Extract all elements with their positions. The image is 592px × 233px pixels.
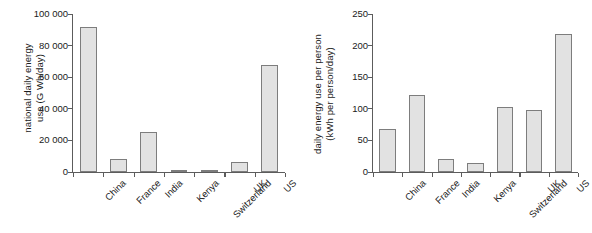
bar-switzerland: [497, 107, 513, 172]
y-tick-label: 100 000: [34, 9, 68, 19]
bar-india: [140, 132, 157, 172]
bar-uk: [231, 162, 248, 172]
x-category-label: India: [460, 178, 482, 200]
x-tick-mark: [578, 173, 579, 177]
chart-panel-daily-energy-use-per-person: daily energy use per person (kWh per per…: [290, 0, 581, 233]
x-category-label: Kenya: [195, 178, 221, 204]
y-tick-label: 150: [352, 72, 368, 82]
bar-us: [261, 65, 278, 172]
y-axis-tick-labels-left: 020 00040 00060 00080 000100 000: [12, 0, 68, 233]
x-category-label: France: [135, 178, 163, 206]
y-tick-label: 250: [352, 9, 368, 19]
x-tick-mark: [224, 173, 225, 177]
x-category-label: China: [103, 178, 128, 203]
x-tick-mark: [103, 173, 104, 177]
x-tick-mark: [134, 173, 135, 177]
x-category-label: US: [575, 178, 591, 194]
bar-france: [409, 95, 425, 172]
x-tick-mark: [194, 173, 195, 177]
y-tick-label: 100: [352, 104, 368, 114]
x-tick-mark: [432, 173, 433, 177]
y-tick-label: 60 000: [39, 72, 68, 82]
y-tick-label: 80 000: [39, 41, 68, 51]
x-tick-mark: [490, 173, 491, 177]
plot-area-left: [73, 14, 285, 172]
x-tick-mark: [461, 173, 462, 177]
bar-uk: [526, 110, 542, 172]
x-tick-mark: [402, 173, 403, 177]
x-tick-mark: [373, 173, 374, 177]
bar-china: [80, 27, 97, 172]
bar-switzerland: [201, 170, 218, 172]
x-tick-mark: [285, 173, 286, 177]
x-tick-mark: [549, 173, 550, 177]
x-tick-mark: [255, 173, 256, 177]
bar-kenya: [467, 163, 483, 172]
y-tick-label: 50: [357, 135, 368, 145]
plot-area-right: [373, 14, 578, 172]
x-category-label: India: [163, 178, 185, 200]
bar-france: [110, 159, 127, 172]
chart-panel-national-daily-energy-use: national daily energy use (G Wh/day) 020…: [0, 0, 291, 233]
bar-us: [555, 34, 571, 172]
x-category-label: France: [434, 178, 462, 206]
bar-china: [379, 129, 395, 172]
y-axis-tick-labels-right: 050100150200250: [312, 0, 368, 233]
x-category-label: China: [403, 178, 428, 203]
x-tick-mark: [164, 173, 165, 177]
y-tick-label: 40 000: [39, 104, 68, 114]
y-tick-label: 20 000: [39, 135, 68, 145]
x-tick-mark: [73, 173, 74, 177]
bar-kenya: [171, 170, 188, 172]
x-category-label: Kenya: [491, 178, 517, 204]
bar-india: [438, 159, 454, 172]
x-tick-mark: [519, 173, 520, 177]
y-tick-label: 200: [352, 41, 368, 51]
